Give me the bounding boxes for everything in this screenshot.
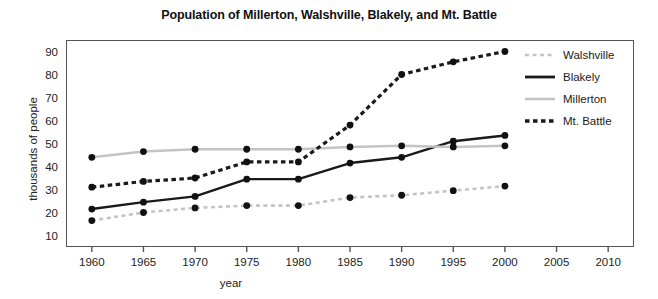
x-axis-tick-label: 1980 (275, 256, 321, 268)
x-axis-tick-label: 2005 (534, 256, 580, 268)
data-point (398, 192, 405, 199)
legend-swatch-mt-battle (524, 115, 556, 127)
x-axis-tick-label: 1970 (172, 256, 218, 268)
y-axis-tick-label: 90 (28, 46, 58, 58)
y-axis-tick-label: 30 (28, 184, 58, 196)
legend-item: Walshville (524, 44, 650, 66)
data-point (295, 176, 302, 183)
x-axis-tick-label: 1960 (69, 256, 115, 268)
data-point (502, 142, 509, 149)
data-point (140, 178, 147, 185)
data-point (295, 159, 302, 166)
legend-swatch-blakely (524, 71, 556, 83)
x-axis-tick-label: 2000 (482, 256, 528, 268)
data-point (502, 132, 509, 139)
data-point (243, 202, 250, 209)
x-axis-tick-label: 2010 (585, 256, 631, 268)
x-axis-tick-label: 1995 (430, 256, 476, 268)
y-axis-tick-label: 50 (28, 138, 58, 150)
legend-label: Blakely (563, 71, 600, 83)
chart-legend: WalshvilleBlakelyMillertonMt. Battle (524, 44, 650, 132)
data-point (243, 176, 250, 183)
series-line-mt-battle (92, 52, 505, 188)
data-point (88, 154, 95, 161)
legend-swatch-walshville (524, 49, 556, 61)
legend-item: Millerton (524, 88, 650, 110)
data-point (243, 146, 250, 153)
legend-swatch-millerton (524, 93, 556, 105)
data-point (502, 183, 509, 190)
data-point (450, 58, 457, 65)
data-point (88, 206, 95, 213)
data-point (295, 146, 302, 153)
data-point (140, 199, 147, 206)
chart-figure: Population of Millerton, Walshville, Bla… (0, 0, 658, 299)
data-point (88, 217, 95, 224)
data-point (192, 175, 199, 182)
x-axis-tick-label: 1985 (327, 256, 373, 268)
legend-label: Mt. Battle (563, 115, 612, 127)
data-point (398, 71, 405, 78)
data-point (243, 159, 250, 166)
data-point (140, 148, 147, 155)
data-point (398, 142, 405, 149)
data-point (192, 205, 199, 212)
data-point (502, 48, 509, 55)
data-point (140, 209, 147, 216)
y-axis-tick-label: 60 (28, 115, 58, 127)
x-axis-label: year (66, 277, 396, 289)
y-axis-tick-label: 10 (28, 230, 58, 242)
data-point (347, 194, 354, 201)
y-axis-tick-label: 40 (28, 161, 58, 173)
legend-label: Walshville (563, 49, 614, 61)
x-axis-tick-label: 1965 (120, 256, 166, 268)
data-point (347, 122, 354, 129)
x-axis-tick-label: 1975 (224, 256, 270, 268)
legend-label: Millerton (563, 93, 606, 105)
legend-item: Blakely (524, 66, 650, 88)
data-point (347, 144, 354, 151)
legend-item: Mt. Battle (524, 110, 650, 132)
data-point (450, 144, 457, 151)
data-point (88, 184, 95, 191)
x-axis-tick-label: 1990 (379, 256, 425, 268)
data-point (192, 193, 199, 200)
data-point (450, 187, 457, 194)
y-axis-tick-label: 20 (28, 207, 58, 219)
y-axis-tick-label: 70 (28, 92, 58, 104)
data-point (295, 202, 302, 209)
chart-title: Population of Millerton, Walshville, Bla… (0, 8, 658, 22)
data-point (398, 154, 405, 161)
data-point (192, 146, 199, 153)
y-axis-tick-label: 80 (28, 69, 58, 81)
data-point (347, 160, 354, 167)
